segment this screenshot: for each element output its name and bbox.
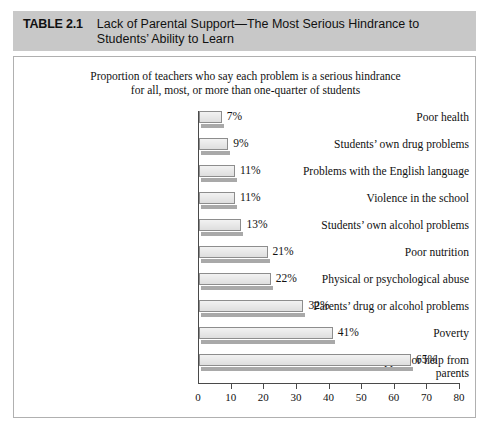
table-number: TABLE 2.1 (23, 17, 83, 31)
bar-value-label: 65% (411, 353, 437, 365)
x-axis-tick (231, 383, 232, 389)
x-axis-tick-label: 60 (388, 391, 399, 403)
bar-row: Parents’ drug or alcohol problems32% (14, 300, 477, 327)
bar-row: Students’ own alcohol problems13% (14, 219, 477, 246)
bar-value-label: 9% (228, 137, 248, 149)
bar-category-label: Poor health (301, 111, 477, 124)
bar (199, 327, 333, 339)
bar-shadow (201, 124, 224, 128)
bar-value-label: 11% (235, 164, 261, 176)
bar-shadow (201, 178, 237, 182)
x-axis-tick (296, 383, 297, 389)
x-axis-tick (263, 383, 264, 389)
x-axis-tick (394, 383, 395, 389)
x-axis-tick-label: 20 (258, 391, 269, 403)
chart-subtitle: Proportion of teachers who say each prob… (14, 69, 477, 97)
bar-category-label: Violence in the school (301, 192, 477, 205)
bar-row: Physical or psychological abuse22% (14, 273, 477, 300)
bar (199, 300, 303, 312)
bar-row: Poor nutrition21% (14, 246, 477, 273)
bar (199, 273, 271, 285)
bar-row: Students’ own drug problems9% (14, 138, 477, 165)
bar-category-label: Students’ own alcohol problems (301, 219, 477, 232)
bar-container: 13% (199, 219, 301, 239)
bar (199, 246, 268, 258)
x-axis-tick-label: 0 (195, 391, 201, 403)
table-figure: TABLE 2.1 Lack of Parental Support—The M… (0, 0, 487, 432)
bar-container: 21% (199, 246, 328, 266)
bar-shadow (201, 205, 237, 209)
bar-value-label: 41% (333, 326, 359, 338)
bar (199, 111, 222, 123)
bar-value-label: 22% (271, 272, 297, 284)
bar (199, 219, 241, 231)
bar-row: Violence in the school11% (14, 192, 477, 219)
x-axis-tick-label: 70 (421, 391, 432, 403)
bar-shadow (201, 232, 243, 236)
x-axis-tick (459, 383, 460, 389)
bar-container: 32% (199, 300, 363, 320)
x-axis-tick-label: 50 (356, 391, 367, 403)
bar-row: Poverty41% (14, 327, 477, 354)
x-axis-tick (361, 383, 362, 389)
bar-category-label: Problems with the English language (301, 165, 477, 178)
bar-row: Poor health7% (14, 111, 477, 138)
chart-subtitle-line-2: for all, most, or more than one-quarter … (14, 83, 477, 97)
bar-shadow (201, 313, 305, 317)
y-axis-line (198, 111, 199, 383)
bar-container: 65% (199, 354, 471, 374)
bar (199, 354, 411, 366)
chart-frame: Proportion of teachers who say each prob… (13, 56, 476, 418)
bar-container: 9% (199, 138, 288, 158)
bar-container: 11% (199, 165, 295, 185)
bar-category-label: Students’ own drug problems (301, 138, 477, 151)
bar-container: 41% (199, 327, 393, 347)
x-axis-tick-label: 80 (454, 391, 465, 403)
bar-value-label: 13% (241, 218, 267, 230)
chart-subtitle-line-1: Proportion of teachers who say each prob… (14, 69, 477, 83)
x-axis-tick-label: 30 (290, 391, 301, 403)
table-header-band: TABLE 2.1 Lack of Parental Support—The M… (13, 11, 476, 51)
bar-shadow (201, 286, 273, 290)
bar-value-label: 7% (222, 110, 242, 122)
bar-row: Problems with the English language11% (14, 165, 477, 192)
bar-value-label: 11% (235, 191, 261, 203)
bar (199, 192, 235, 204)
bar-rows: Poor health7%Students’ own drug problems… (14, 111, 477, 381)
x-axis-tick-label: 40 (323, 391, 334, 403)
x-axis-tick-label: 10 (225, 391, 236, 403)
bar-shadow (201, 259, 270, 263)
bar-container: 11% (199, 192, 295, 212)
bar-container: 22% (199, 273, 331, 293)
bar-shadow (201, 151, 230, 155)
x-axis-tick (329, 383, 330, 389)
bar-container: 7% (199, 111, 282, 131)
bar-shadow (201, 340, 335, 344)
x-axis-tick (426, 383, 427, 389)
bar (199, 165, 235, 177)
bar-shadow (201, 367, 413, 371)
bar (199, 138, 228, 150)
bar-value-label: 32% (303, 299, 329, 311)
bar-value-label: 21% (268, 245, 294, 257)
bar-row: Lack of support or help from parents65% (14, 354, 477, 381)
plot-area: Poor health7%Students’ own drug problems… (14, 111, 477, 401)
table-title: Lack of Parental Support—The Most Seriou… (97, 17, 466, 47)
